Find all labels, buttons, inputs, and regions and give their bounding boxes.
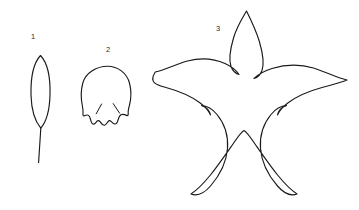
figure-3-label: 3: [216, 24, 220, 33]
figure-2-label: 2: [106, 45, 110, 54]
line-drawing-canvas: 1 2 3: [0, 0, 359, 210]
canvas-background: [0, 0, 359, 210]
figure-1-label: 1: [31, 32, 35, 41]
